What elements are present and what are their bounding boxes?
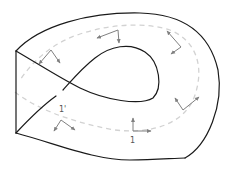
arrow-icon bbox=[167, 31, 181, 47]
frame-4 bbox=[97, 30, 119, 43]
end-frame-label: 1' bbox=[59, 106, 66, 114]
transport-path bbox=[15, 25, 199, 131]
start-frame-label: 1 bbox=[130, 137, 135, 145]
frame-2 bbox=[175, 97, 199, 110]
arrow-icon bbox=[61, 120, 75, 130]
frame-5 bbox=[39, 50, 60, 64]
frame-6 bbox=[54, 120, 75, 131]
arrow-icon bbox=[171, 47, 181, 54]
outer-boundary bbox=[16, 13, 219, 158]
arrow-icon bbox=[118, 30, 119, 43]
arrow-icon bbox=[175, 98, 183, 110]
surface-diagram: 1 1' bbox=[0, 0, 225, 170]
arrow-icon bbox=[51, 50, 60, 63]
arrow-icon bbox=[97, 30, 118, 38]
surface-drawing bbox=[0, 0, 225, 170]
twist-edge-upper bbox=[16, 46, 159, 101]
arrow-icon bbox=[54, 120, 61, 131]
arrow-icon bbox=[183, 97, 199, 110]
frame-1 bbox=[133, 118, 151, 131]
bottom-boundary bbox=[16, 133, 185, 160]
twist-edge-lower bbox=[16, 96, 56, 133]
